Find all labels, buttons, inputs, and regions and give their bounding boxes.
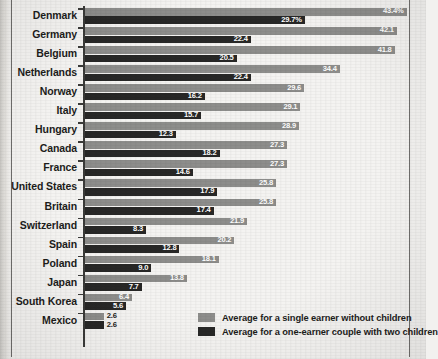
bar-value-label: 13.8 bbox=[170, 274, 184, 283]
bar-light: 21.9 bbox=[85, 218, 247, 226]
category-label: Poland bbox=[0, 257, 77, 269]
bar-value-label: 25.8 bbox=[259, 198, 273, 207]
chart-row: Norway29.616.2 bbox=[0, 84, 426, 102]
chart-row: Denmark43.4%29.7% bbox=[0, 8, 426, 26]
category-label: Spain bbox=[0, 238, 77, 250]
chart-row: United States25.817.9 bbox=[0, 179, 426, 197]
bar-pair: 34.422.4 bbox=[85, 65, 340, 82]
bar-dark: 22.4 bbox=[85, 74, 251, 82]
bar-value-label: 8.3 bbox=[133, 225, 143, 234]
axis-tick bbox=[78, 141, 84, 143]
category-label: Italy bbox=[0, 104, 77, 116]
axis-tick bbox=[78, 218, 84, 220]
chart-row: Hungary28.912.3 bbox=[0, 122, 426, 140]
bar-value-label: 5.6 bbox=[113, 302, 123, 311]
bar-light: 43.4% bbox=[85, 8, 407, 16]
chart-row: Poland18.19.0 bbox=[0, 256, 426, 274]
bar-value-label: 41.8 bbox=[378, 46, 392, 55]
bar-light: 41.8 bbox=[85, 46, 395, 54]
chart-row: Netherlands34.422.4 bbox=[0, 65, 426, 83]
chart-row: Germany42.122.4 bbox=[0, 27, 426, 45]
axis-tick bbox=[78, 103, 84, 105]
legend-item: Average for a one-earner couple with two… bbox=[198, 326, 438, 337]
bar-value-label: 21.9 bbox=[230, 217, 244, 226]
bar-dark: 29.7% bbox=[85, 16, 305, 24]
bar-pair: 21.98.3 bbox=[85, 218, 247, 235]
category-label: Canada bbox=[0, 142, 77, 154]
bar-value-label: 42.1 bbox=[380, 26, 394, 35]
bar-value-label: 17.4 bbox=[197, 206, 211, 215]
category-label: Switzerland bbox=[0, 219, 77, 231]
category-label: Hungary bbox=[0, 123, 77, 135]
bar-pair: 28.912.3 bbox=[85, 122, 299, 139]
axis-tick bbox=[78, 27, 84, 29]
bar-value-label: 27.3 bbox=[270, 160, 284, 169]
axis-tick bbox=[78, 160, 84, 162]
bar-dark: 5.6 bbox=[85, 302, 127, 310]
bar-value-label: 18.1 bbox=[202, 255, 216, 264]
bar-value-label: 28.9 bbox=[282, 122, 296, 131]
bar-pair: 13.87.7 bbox=[85, 275, 187, 292]
axis-tick bbox=[78, 179, 84, 181]
category-label: France bbox=[0, 161, 77, 173]
bar-light: 6.4 bbox=[85, 294, 132, 302]
axis-tick bbox=[78, 65, 84, 67]
bar-value-label: 16.2 bbox=[188, 92, 202, 101]
bar-dark: 20.5 bbox=[85, 55, 237, 63]
bar-dark: 18.2 bbox=[85, 150, 220, 158]
bar-pair: 6.45.6 bbox=[85, 294, 132, 311]
bar-value-label: 43.4% bbox=[383, 7, 404, 16]
chart-row: Japan13.87.7 bbox=[0, 275, 426, 293]
axis-tick bbox=[78, 256, 84, 258]
category-label: Denmark bbox=[0, 9, 77, 21]
chart-row: Spain20.212.8 bbox=[0, 237, 426, 255]
bar-light: 27.3 bbox=[85, 141, 288, 149]
bar-pair: 25.817.4 bbox=[85, 199, 276, 216]
bar-pair: 2.62.6 bbox=[85, 313, 104, 330]
bar-dark: 12.3 bbox=[85, 131, 176, 139]
bar-light: 25.8 bbox=[85, 179, 276, 187]
bar-pair: 41.820.5 bbox=[85, 46, 395, 63]
axis-tick bbox=[78, 294, 84, 296]
legend-label: Average for a single earner without chil… bbox=[222, 313, 412, 323]
chart-row: Italy29.115.7 bbox=[0, 103, 426, 121]
bar-value-label: 22.4 bbox=[234, 73, 248, 82]
axis-tick bbox=[78, 275, 84, 277]
bar-value-label: 17.9 bbox=[200, 187, 214, 196]
bar-value-label: 12.8 bbox=[162, 244, 176, 253]
bar-pair: 29.616.2 bbox=[85, 84, 305, 101]
bar-value-label: 15.7 bbox=[184, 111, 198, 120]
bar-value-label: 12.3 bbox=[159, 130, 173, 139]
category-label: Mexico bbox=[0, 314, 77, 326]
bar-dark: 2.6 bbox=[85, 321, 104, 329]
bar-dark: 7.7 bbox=[85, 283, 142, 291]
category-label: Norway bbox=[0, 85, 77, 97]
bar-value-label: 18.2 bbox=[203, 149, 217, 158]
bar-value-label: 34.4 bbox=[323, 65, 337, 74]
category-label: Japan bbox=[0, 276, 77, 288]
bar-value-label: 29.1 bbox=[283, 103, 297, 112]
bar-value-label: 9.0 bbox=[138, 264, 148, 273]
bar-value-label: 22.4 bbox=[234, 35, 248, 44]
chart-row: Britain25.817.4 bbox=[0, 199, 426, 217]
axis-tick bbox=[78, 199, 84, 201]
axis-tick bbox=[78, 237, 84, 239]
bar-dark: 8.3 bbox=[85, 226, 147, 234]
bar-dark: 14.6 bbox=[85, 169, 193, 177]
bar-dark: 22.4 bbox=[85, 36, 251, 44]
category-label: South Korea bbox=[0, 295, 77, 307]
bar-value-label: 20.5 bbox=[220, 54, 234, 63]
legend-item: Average for a single earner without chil… bbox=[198, 312, 438, 323]
bar-light: 34.4 bbox=[85, 65, 340, 73]
bar-pair: 20.212.8 bbox=[85, 237, 235, 254]
chart-row: France27.314.6 bbox=[0, 160, 426, 178]
bar-dark: 16.2 bbox=[85, 93, 205, 101]
chart-row: South Korea6.45.6 bbox=[0, 294, 426, 312]
axis-tick bbox=[78, 122, 84, 124]
legend-swatch bbox=[198, 327, 215, 336]
bar-value-label: 25.8 bbox=[259, 179, 273, 188]
bar-pair: 42.122.4 bbox=[85, 27, 397, 44]
bar-dark: 17.9 bbox=[85, 188, 218, 196]
bar-dark: 17.4 bbox=[85, 207, 214, 215]
